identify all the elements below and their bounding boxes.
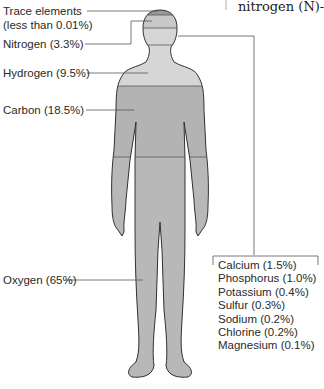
list-item-phosphorus: Phosphorus (1.0%)	[218, 272, 316, 285]
minor-elements-list: Calcium (1.5%) Phosphorus (1.0%) Potassi…	[218, 259, 316, 353]
list-item-potassium: Potassium (0.4%)	[218, 286, 316, 299]
list-item-sodium: Sodium (0.2%)	[218, 313, 316, 326]
label-oxygen: Oxygen (65%)	[3, 274, 77, 287]
list-item-chlorine: Chlorine (0.2%)	[218, 326, 316, 339]
label-carbon: Carbon (18.5%)	[3, 104, 84, 117]
label-trace-elements: Trace elements	[3, 5, 82, 18]
label-hydrogen: Hydrogen (9.5%)	[3, 67, 90, 80]
list-item-magnesium: Magnesium (0.1%)	[218, 339, 316, 352]
list-item-calcium: Calcium (1.5%)	[218, 259, 316, 272]
label-nitrogen: Nitrogen (3.3%)	[3, 38, 84, 51]
header-fragment: nitrogen (N)-	[238, 0, 324, 13]
label-trace-elements-percent: (less than 0.01%)	[3, 19, 93, 32]
list-item-sulfur: Sulfur (0.3%)	[218, 299, 316, 312]
